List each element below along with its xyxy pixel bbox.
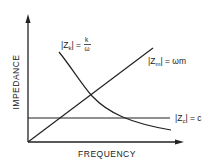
zm-label: |Zm| = ωm: [148, 56, 186, 67]
y-axis-label: IMPEDANCE: [11, 54, 21, 109]
svg-text:ω: ω: [85, 45, 90, 52]
impedance-diagram: |Zk| = k ω |Zm| = ωm |Zc| = c FREQUENCY …: [0, 0, 209, 163]
x-axis-arrow-icon: [175, 140, 184, 145]
zk-label: |Zk| = k ω: [61, 36, 91, 52]
zc-label: |Zc| = c: [175, 113, 202, 124]
y-axis-arrow-icon: [26, 14, 31, 23]
x-axis-label: FREQUENCY: [78, 149, 136, 159]
svg-text:|Zk| =: |Zk| =: [61, 40, 81, 51]
svg-text:k: k: [85, 36, 89, 43]
